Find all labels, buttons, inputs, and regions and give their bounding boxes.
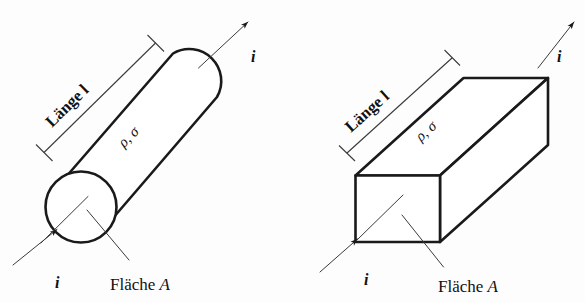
cuboid-area-caption: Fläche A <box>438 277 499 296</box>
current-out-arrow <box>199 22 249 68</box>
cylinder-area-caption: Fläche A <box>110 275 171 294</box>
cuboid-current-out: i <box>538 22 574 68</box>
cylinder-area-caption-symbol: A <box>159 275 171 294</box>
cylinder-area-caption-prefix: Fläche <box>110 275 160 294</box>
cylinder-current-in-label: i <box>55 274 60 291</box>
cuboid-diagram: Länge l ρ, σ i i Fläche A <box>320 22 574 296</box>
cylinder-current-in: i <box>13 230 60 292</box>
cuboid-current-in: i <box>320 239 369 288</box>
current-in-arrow <box>320 239 358 272</box>
cylinder-length-label: Länge l <box>41 80 92 131</box>
cylinder-current-out-label: i <box>251 48 256 65</box>
cuboid-end-face <box>356 176 441 243</box>
current-out-arrow <box>538 22 574 68</box>
current-in-arrow <box>13 230 57 266</box>
cuboid-length-label: Länge l <box>341 86 393 136</box>
cuboid-current-in-label: i <box>364 271 369 288</box>
cuboid-area-caption-prefix: Fläche <box>438 277 488 296</box>
cylinder-diagram: Länge l ρ, σ i i Fläche A <box>13 22 256 294</box>
cuboid-area-caption-symbol: A <box>487 277 499 296</box>
cuboid-current-out-label: i <box>557 48 562 65</box>
physics-conductor-figure: Länge l ρ, σ i i Fläche A <box>0 0 585 302</box>
figure-root: Länge l ρ, σ i i Fläche A <box>0 0 585 302</box>
cylinder-body <box>46 49 222 242</box>
